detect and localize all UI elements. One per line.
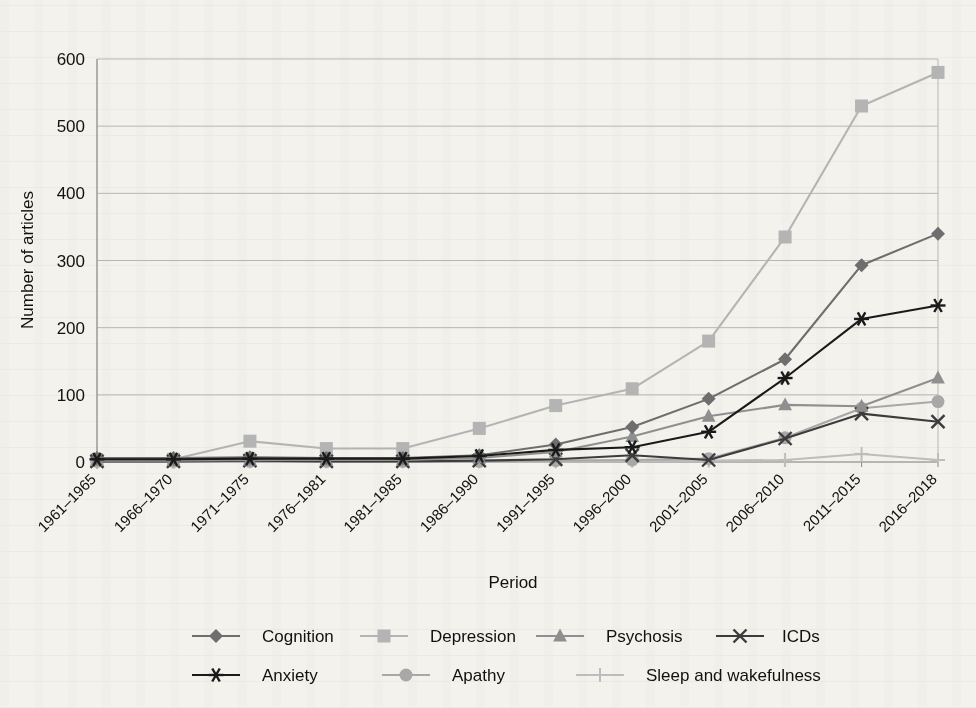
legend-marker-plus-icon [593,668,607,682]
legend-marker-diamond-icon [209,629,223,643]
x-tick-label-0: 1961–1965 [34,470,99,535]
data-point [473,422,486,435]
legend-marker-square-icon [378,630,391,643]
legend-label-apathy: Apathy [452,666,505,685]
y-axis-title: Number of articles [18,191,37,329]
legend-marker-asterisk-icon [209,668,224,681]
data-point [243,435,256,448]
y-tick-label-600: 600 [57,50,85,69]
legend-label-sleep-and-wakefulness: Sleep and wakefulness [646,666,821,685]
y-tick-label-200: 200 [57,319,85,338]
data-point [855,100,868,113]
legend-group: CognitionDepressionPsychosisICDsAnxietyA… [192,627,821,685]
line-chart-canvas: 0100200300400500600 1961–19651966–197019… [0,0,976,708]
x-tick-labels-group: 1961–19651966–19701971–19751976–19811981… [34,470,940,535]
y-tick-label-500: 500 [57,117,85,136]
data-point [932,395,945,408]
legend-item-cognition[interactable]: Cognition [192,627,334,646]
x-axis-title: Period [488,573,537,592]
y-tick-label-300: 300 [57,252,85,271]
data-point [778,397,792,410]
y-tick-label-400: 400 [57,184,85,203]
data-point [931,371,945,384]
x-tick-label-1: 1966–1970 [110,470,175,535]
x-tick-label-8: 2001–2005 [646,470,711,535]
data-point [702,392,716,406]
x-tick-label-10: 2011–2015 [799,470,863,534]
series-anxiety [90,299,946,466]
x-tick-label-3: 1976–1981 [263,470,328,535]
gridlines-group [97,59,938,462]
data-point [626,382,639,395]
legend-marker-circle-icon [400,669,413,682]
legend-label-icds: ICDs [782,627,820,646]
data-point [931,453,945,467]
x-tick-label-9: 2006–2010 [722,470,787,535]
chart-figure: 0100200300400500600 1961–19651966–197019… [0,0,976,708]
legend-label-depression: Depression [430,627,516,646]
x-tick-label-5: 1986–1990 [416,470,481,535]
legend-item-psychosis[interactable]: Psychosis [536,627,683,646]
legend-label-cognition: Cognition [262,627,334,646]
legend-item-depression[interactable]: Depression [360,627,516,646]
data-point [779,230,792,243]
data-point [549,399,562,412]
x-tick-label-2: 1971–1975 [187,470,252,535]
data-point [931,227,945,241]
legend-item-icds[interactable]: ICDs [716,627,820,646]
legend-item-sleep-and-wakefulness[interactable]: Sleep and wakefulness [576,666,821,685]
legend-label-psychosis: Psychosis [606,627,683,646]
data-point [625,441,640,454]
legend-item-anxiety[interactable]: Anxiety [192,666,318,685]
data-point [625,420,639,434]
series-psychosis [90,371,945,467]
x-tick-label-6: 1991–1995 [493,470,558,535]
data-point [932,66,945,79]
y-tick-label-0: 0 [76,453,85,472]
data-point [855,447,869,461]
y-tick-labels-group: 0100200300400500600 [57,50,85,472]
x-tick-label-4: 1981–1985 [340,470,405,535]
data-point [702,335,715,348]
data-point [778,453,792,467]
x-tick-label-7: 1996–2000 [569,470,634,535]
y-tick-label-100: 100 [57,386,85,405]
legend-label-anxiety: Anxiety [262,666,318,685]
legend-item-apathy[interactable]: Apathy [382,666,505,685]
x-tick-label-11: 2016–2018 [875,470,940,535]
